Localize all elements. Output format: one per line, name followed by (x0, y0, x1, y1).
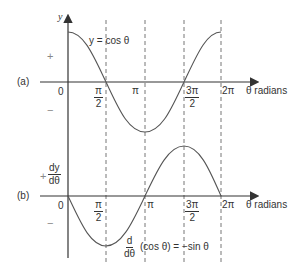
y-axis-label: y (58, 12, 62, 22)
panel-b-label: (b) (17, 191, 29, 201)
tick-pi-a: π (132, 86, 139, 96)
tick-3pi-over-2-b: 3π2 (185, 200, 199, 223)
tick-pi-b: π (147, 200, 154, 210)
origin-label-a: 0 (58, 87, 64, 97)
tick-2pi-b: 2π (222, 200, 234, 210)
panel-a-label: (a) (17, 77, 29, 87)
minus-sign-b: − (47, 217, 53, 229)
derivative-label: (cos θ) = −sin θ (140, 242, 209, 252)
tick-pi-over-2-b: π2 (94, 200, 103, 223)
tick-2pi-a: 2π (222, 86, 234, 96)
x-axis-label-b: θ radians (246, 200, 287, 210)
tick-pi-over-2-a: π2 (94, 86, 103, 109)
x-axis-label-a: θ radians (246, 86, 287, 96)
cos-curve-label: y = cos θ (89, 36, 129, 46)
plus-sign-a: + (47, 50, 53, 62)
plus-sign-b: + (40, 170, 46, 182)
derivative-operator: ddθ (124, 236, 135, 259)
origin-label-b: 0 (58, 201, 64, 211)
minus-sign-a: − (47, 104, 53, 116)
diagram-canvas (0, 0, 302, 271)
dy-dtheta-label: dydθ (48, 163, 61, 186)
guide-lines (106, 20, 221, 262)
tick-3pi-over-2-a: 3π2 (185, 86, 199, 109)
